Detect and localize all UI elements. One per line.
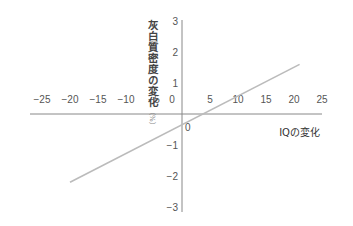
- x-tick-label: 0: [169, 94, 175, 105]
- x-tick-label: −20: [62, 94, 79, 105]
- chart-canvas: −25−20−15−10−55101520250 321−1−2−3 0 IQの…: [0, 0, 353, 226]
- y-tick-label: 1: [172, 78, 178, 89]
- y-tick-label: 2: [172, 47, 178, 58]
- regression-line: [70, 64, 300, 182]
- x-tick-label: 20: [288, 94, 300, 105]
- x-tick-label: 5: [207, 94, 213, 105]
- y-tick-label: −1: [167, 140, 179, 151]
- y-axis-unit: （%）: [148, 108, 156, 129]
- x-tick-label: −15: [90, 94, 107, 105]
- y-axis-label: 灰白質密度の変化（%）: [144, 20, 158, 129]
- data-series: [70, 64, 300, 182]
- y-tick-label: 3: [172, 16, 178, 27]
- y-tick-label: −2: [167, 171, 179, 182]
- x-tick-label: −10: [118, 94, 135, 105]
- x-tick-label: −25: [34, 94, 51, 105]
- x-tick-labels: −25−20−15−10−55101520250: [34, 94, 328, 105]
- x-tick-label: 15: [260, 94, 272, 105]
- x-axis-label: IQの変化: [279, 126, 320, 138]
- y-tick-label: −3: [167, 202, 179, 213]
- x-tick-label: 25: [316, 94, 328, 105]
- y-axis-label-text: 灰白質密度の変化: [146, 20, 158, 108]
- origin-label: 0: [185, 122, 191, 133]
